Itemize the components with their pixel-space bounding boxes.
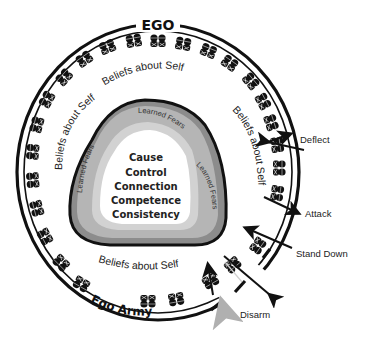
- core-need-connection: Connection: [114, 181, 177, 192]
- ego-army-diagram: EGO Learned Fears: [0, 0, 367, 346]
- core-need-control: Control: [125, 167, 166, 178]
- core-need-cause: Cause: [129, 152, 163, 163]
- stand-down-label: Stand Down: [296, 248, 348, 259]
- attack-label: Attack: [305, 208, 332, 219]
- core-need-consistency: Consistency: [112, 209, 180, 220]
- deflect-label: Deflect: [300, 134, 330, 145]
- beliefs-label-right: Beliefs about Self: [231, 103, 269, 185]
- core-need-competence: Competence: [111, 195, 181, 206]
- beliefs-label-top: Beliefs about Self: [100, 58, 185, 87]
- beliefs-label-bottom: Beliefs about Self: [97, 252, 179, 271]
- ego-title: EGO: [142, 17, 175, 33]
- disarm-label: Disarm: [240, 309, 270, 320]
